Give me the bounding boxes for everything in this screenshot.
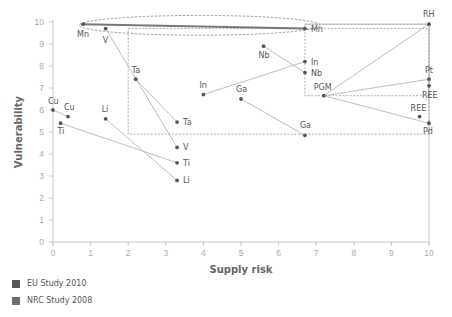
connection-line bbox=[136, 79, 177, 122]
x-tick-label: 0 bbox=[51, 248, 56, 258]
data-point bbox=[81, 22, 85, 26]
point-label: Ta bbox=[182, 118, 192, 127]
data-point bbox=[239, 97, 243, 101]
point-label: REE bbox=[422, 91, 438, 100]
data-point bbox=[134, 77, 138, 81]
data-point bbox=[51, 108, 55, 112]
legend-label-nrc: NRC Study 2008 bbox=[27, 296, 92, 305]
connection-line bbox=[106, 29, 177, 148]
y-tick-label: 6 bbox=[39, 105, 44, 115]
y-tick-label: 8 bbox=[39, 61, 44, 71]
x-tick-label: 7 bbox=[314, 248, 319, 258]
x-axis-title: Supply risk bbox=[209, 264, 272, 275]
data-point bbox=[303, 133, 307, 137]
data-point bbox=[175, 146, 179, 150]
data-point bbox=[175, 120, 179, 124]
data-point bbox=[59, 121, 63, 125]
point-label: Nb bbox=[311, 69, 322, 78]
point-label: RH bbox=[423, 10, 435, 19]
y-tick-label: 4 bbox=[39, 149, 44, 159]
point-label: Pd bbox=[423, 127, 433, 136]
x-tick-label: 5 bbox=[239, 248, 244, 258]
data-point bbox=[104, 27, 108, 31]
x-tick-label: 3 bbox=[163, 248, 168, 258]
y-tick-label: 5 bbox=[39, 127, 44, 137]
data-point bbox=[66, 115, 70, 119]
point-label: Ga bbox=[300, 121, 311, 130]
connection-line bbox=[324, 79, 429, 96]
point-label: Ti bbox=[57, 127, 65, 136]
connection-line bbox=[203, 62, 305, 95]
connection-line bbox=[324, 24, 429, 96]
x-tick-label: 9 bbox=[389, 248, 394, 258]
data-point bbox=[427, 22, 431, 26]
legend-swatch-nrc bbox=[12, 297, 20, 305]
point-label: V bbox=[183, 143, 189, 152]
y-tick-label: 3 bbox=[39, 171, 44, 181]
point-label: PGM bbox=[314, 83, 332, 92]
point-label: REE bbox=[411, 104, 427, 113]
data-point bbox=[427, 121, 431, 125]
y-tick-label: 0 bbox=[39, 237, 44, 247]
connection-line bbox=[83, 24, 305, 28]
data-point bbox=[262, 44, 266, 48]
y-tick-label: 7 bbox=[39, 83, 44, 93]
data-point bbox=[322, 94, 326, 98]
x-tick-label: 6 bbox=[276, 248, 281, 258]
point-label: Nb bbox=[259, 51, 270, 60]
data-point bbox=[303, 71, 307, 75]
x-tick-label: 1 bbox=[88, 248, 93, 258]
y-tick-label: 2 bbox=[39, 193, 44, 203]
legend-label-eu: EU Study 2010 bbox=[27, 279, 86, 288]
scatter-chart: 012345678910 012345678910 MnMnVVTaTaCuCu… bbox=[0, 0, 452, 317]
y-tick-label: 9 bbox=[39, 39, 44, 49]
legend-item-nrc-study: NRC Study 2008 bbox=[12, 296, 92, 305]
point-label: Cu bbox=[64, 103, 75, 112]
point-label: In bbox=[199, 81, 206, 90]
connection-lines bbox=[53, 24, 429, 180]
point-label: Ti bbox=[182, 159, 190, 168]
x-tick-label: 10 bbox=[424, 248, 434, 258]
data-point bbox=[175, 161, 179, 165]
point-label: V bbox=[103, 36, 109, 45]
point-label: Pt bbox=[425, 66, 433, 75]
point-label: Cu bbox=[48, 97, 59, 106]
data-point bbox=[303, 27, 307, 31]
data-point bbox=[427, 84, 431, 88]
connection-line bbox=[241, 99, 305, 135]
point-label: Li bbox=[183, 176, 190, 185]
x-tick-label: 2 bbox=[126, 248, 131, 258]
legend-swatch-eu bbox=[12, 280, 20, 288]
point-label: Ga bbox=[236, 85, 247, 94]
data-point bbox=[427, 77, 431, 81]
x-tick-label: 8 bbox=[351, 248, 356, 258]
connection-line bbox=[106, 119, 177, 181]
data-point bbox=[303, 60, 307, 64]
data-point bbox=[202, 93, 206, 97]
y-tick-label: 10 bbox=[35, 17, 45, 27]
legend-item-eu-study: EU Study 2010 bbox=[12, 279, 86, 288]
point-label: In bbox=[311, 58, 318, 67]
point-label: Li bbox=[102, 105, 109, 114]
data-point bbox=[104, 117, 108, 121]
axes: 012345678910 012345678910 bbox=[35, 17, 434, 258]
y-axis-title: Vulnerability bbox=[13, 95, 24, 168]
y-tick-label: 1 bbox=[39, 215, 44, 225]
point-label: Mn bbox=[311, 25, 323, 34]
data-point bbox=[418, 115, 422, 119]
point-label: Ta bbox=[131, 66, 141, 75]
data-point bbox=[175, 179, 179, 183]
x-tick-label: 4 bbox=[201, 248, 206, 258]
point-label: Mn bbox=[77, 30, 89, 39]
data-points: MnMnVVTaTaCuCuTiTiLiLiInInNbNbGaGaRHPGMP… bbox=[48, 10, 438, 185]
connection-line bbox=[61, 123, 178, 163]
